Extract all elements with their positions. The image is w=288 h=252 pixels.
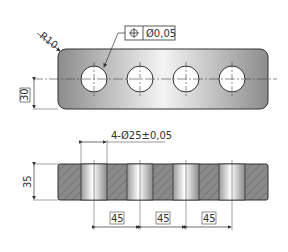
hole-callout: 4-Ø25±0,05: [111, 130, 172, 141]
tolerance-value: Ø0,05: [146, 28, 176, 39]
height-dim: 30: [19, 88, 30, 101]
radius-label: R10: [38, 30, 60, 51]
pitch-dim-2: 45: [157, 213, 170, 224]
feature-control-frame: Ø0,05: [125, 26, 176, 40]
thickness-dim: 35: [22, 175, 33, 188]
section-view: 4-Ø25±0,05 35 45 45 45: [22, 130, 268, 230]
pitch-dim-1: 45: [111, 213, 124, 224]
pitch-dim-3: 45: [203, 213, 216, 224]
technical-drawing: R10 Ø0,05 30 4-Ø25: [0, 0, 288, 252]
top-view: R10 Ø0,05 30: [19, 26, 277, 109]
